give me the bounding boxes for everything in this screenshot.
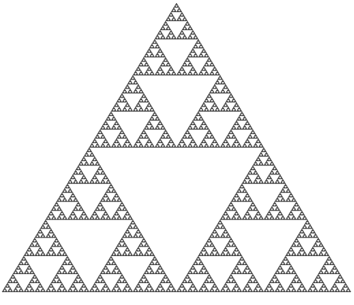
fractal-path [2,3,351,292]
triangle-group [2,3,351,292]
sierpinski-triangle [0,0,354,305]
